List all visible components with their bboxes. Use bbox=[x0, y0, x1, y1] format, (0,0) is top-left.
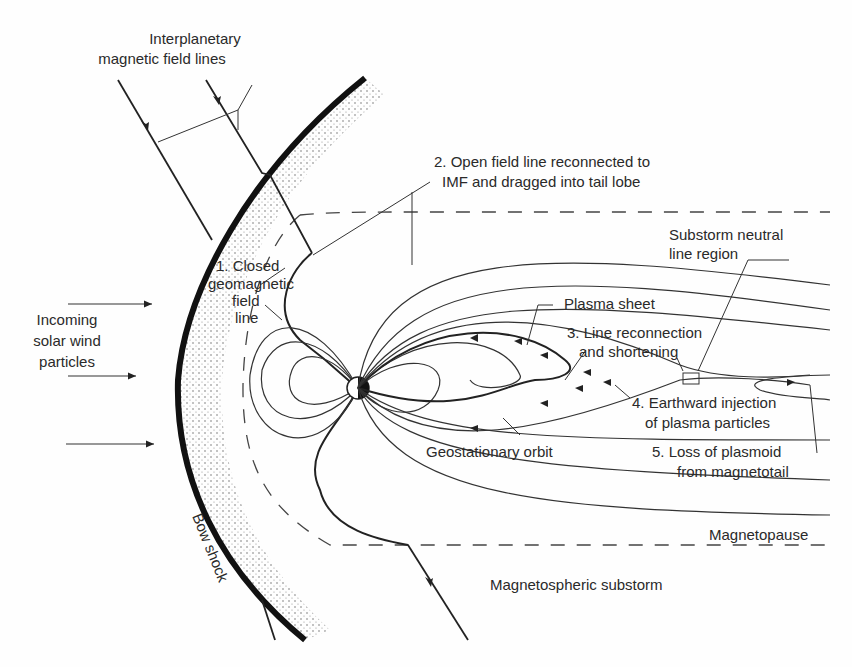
diagram-svg: Interplanetary magnetic field lines 2. O… bbox=[0, 0, 852, 667]
label-solar-wind-1: Incoming bbox=[37, 311, 98, 328]
label-magnetopause: Magnetopause bbox=[709, 526, 808, 543]
label-imf-1: Interplanetary bbox=[149, 30, 241, 47]
label-imf-2: magnetic field lines bbox=[98, 50, 226, 67]
label-step1-4: line bbox=[235, 309, 258, 326]
label-solar-wind-2: solar wind bbox=[33, 332, 101, 349]
label-neutral-1: Substorm neutral bbox=[669, 226, 783, 243]
labels: Interplanetary magnetic field lines 2. O… bbox=[33, 30, 808, 593]
label-step5-1: 5. Loss of plasmoid bbox=[652, 443, 781, 460]
magnetosphere-diagram: Interplanetary magnetic field lines 2. O… bbox=[0, 0, 852, 667]
label-geostationary: Geostationary orbit bbox=[426, 443, 554, 460]
label-solar-wind-3: particles bbox=[39, 353, 95, 370]
label-step3-2: and shortening bbox=[579, 343, 678, 360]
label-neutral-2: line region bbox=[669, 245, 738, 262]
label-step3-1: 3. Line reconnection bbox=[567, 324, 702, 341]
label-step5-2: from magnetotail bbox=[677, 463, 789, 480]
label-step4-2: of plasma particles bbox=[645, 414, 770, 431]
label-step1-2: geomagnetic bbox=[208, 275, 294, 292]
label-step1-3: field bbox=[232, 292, 260, 309]
label-step4-1: 4. Earthward injection bbox=[632, 394, 776, 411]
label-step1-1: 1. Closed bbox=[216, 257, 279, 274]
label-caption: Magnetospheric substorm bbox=[490, 576, 663, 593]
dayside-field-lines bbox=[250, 328, 358, 438]
label-plasma-sheet: Plasma sheet bbox=[564, 295, 656, 312]
label-step2-2: IMF and dragged into tail lobe bbox=[442, 173, 640, 190]
label-step2-1: 2. Open field line reconnected to bbox=[434, 153, 650, 170]
